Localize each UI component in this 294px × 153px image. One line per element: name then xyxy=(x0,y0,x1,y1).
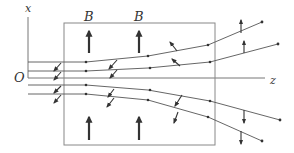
force-arrow-icon xyxy=(54,72,61,80)
force-arrow-icon xyxy=(110,70,117,78)
field-label-b-1: B xyxy=(84,10,94,23)
diagram-canvas xyxy=(0,0,294,153)
beam-markers xyxy=(85,21,282,143)
force-arrow-icon xyxy=(175,95,182,106)
force-arrow-icon xyxy=(54,63,61,71)
force-arrow-icon xyxy=(54,95,61,103)
beam-4 xyxy=(28,94,262,141)
x-axis-label: x xyxy=(25,3,31,14)
beam-3 xyxy=(28,85,280,120)
force-arrow-icon xyxy=(107,98,114,107)
force-arrow-icon xyxy=(108,89,114,97)
beam-2 xyxy=(28,44,278,71)
force-arrow-icon xyxy=(170,42,177,51)
z-axis-label: z xyxy=(270,75,276,86)
force-arrow-icon xyxy=(174,112,178,123)
origin-label: O xyxy=(14,71,25,84)
field-label-b-2: B xyxy=(134,10,144,23)
beam-trajectories xyxy=(28,22,280,141)
force-arrow-icon xyxy=(54,86,61,93)
magnetic-lens-diagram: x O z B B xyxy=(0,0,294,153)
force-arrow-icon xyxy=(109,60,117,69)
beam-1 xyxy=(28,22,262,62)
